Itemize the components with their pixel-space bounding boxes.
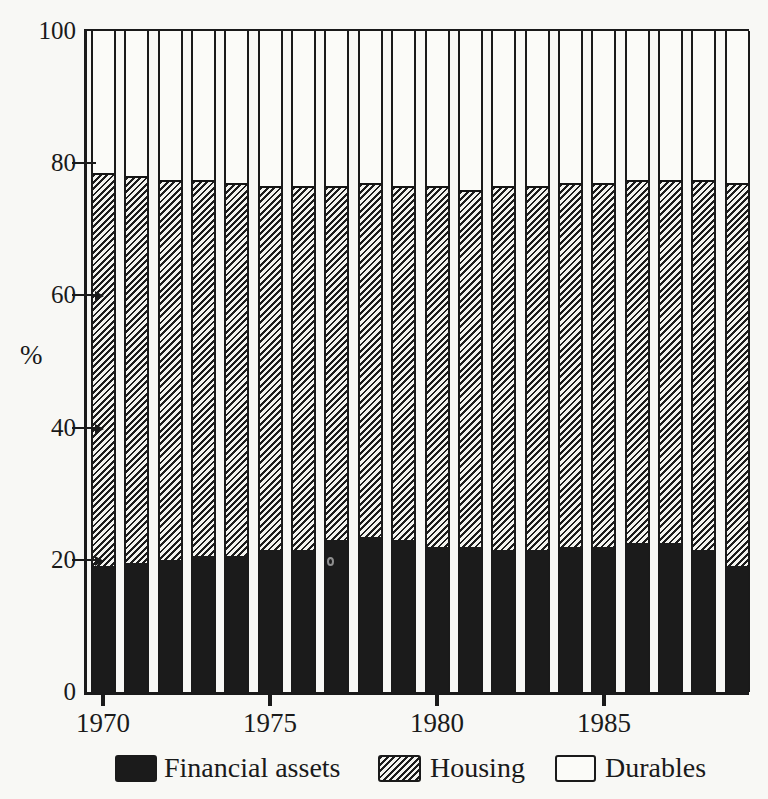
bar-1970 (91, 31, 116, 692)
x-tick-1975 (268, 695, 272, 706)
segment-durables-1982 (493, 31, 514, 186)
segment-durables-1988 (693, 31, 714, 180)
segment-financial-assets-1983 (527, 550, 548, 692)
y-tick-arrow-60 (95, 291, 104, 301)
y-tick-label-80: 80 (26, 150, 76, 176)
segment-financial-assets-1987 (660, 543, 681, 692)
x-tick-label-1975: 1975 (225, 708, 315, 739)
segment-durables-1981 (460, 31, 481, 190)
segment-durables-1976 (293, 31, 314, 186)
y-tick-arrow-20 (95, 556, 104, 566)
x-tick-label-1970: 1970 (58, 708, 148, 739)
scanned-chart-page: 100 80 60 40 20 0 % 1970 1975 1980 1985 … (0, 0, 768, 799)
segment-housing-1972 (160, 180, 181, 560)
segment-financial-assets-1971 (126, 563, 147, 692)
segment-housing-1971 (126, 176, 147, 563)
bar-1971 (124, 31, 149, 692)
segment-durables-1989 (727, 31, 748, 183)
segment-durables-1971 (126, 31, 147, 176)
y-tick-arrow-40 (95, 424, 104, 434)
bar-1973 (191, 31, 216, 692)
segment-durables-1986 (627, 31, 648, 180)
segment-housing-1980 (427, 186, 448, 546)
segment-housing-1978 (360, 183, 381, 537)
x-tick-label-1985: 1985 (559, 708, 649, 739)
segment-housing-1988 (693, 180, 714, 550)
bar-1980 (425, 31, 450, 692)
segment-durables-1984 (560, 31, 581, 183)
segment-financial-assets-1979 (393, 540, 414, 692)
legend-label-durables: Durables (605, 752, 706, 784)
y-tick-40 (72, 427, 96, 429)
segment-financial-assets-1988 (693, 550, 714, 692)
segment-durables-1980 (427, 31, 448, 186)
segment-housing-1985 (593, 183, 614, 547)
segment-financial-assets-1980 (427, 547, 448, 692)
segment-financial-assets-1976 (293, 550, 314, 692)
bar-1988 (691, 31, 716, 692)
legend-label-financial-assets: Financial assets (164, 752, 341, 784)
segment-financial-assets-1973 (193, 556, 214, 692)
y-tick-label-60: 60 (26, 282, 76, 308)
bar-1977 (324, 31, 349, 692)
legend-swatch-financial-assets (115, 755, 157, 782)
segment-durables-1975 (260, 31, 281, 186)
y-axis-line (84, 29, 87, 695)
segment-financial-assets-1972 (160, 560, 181, 692)
segment-housing-1982 (493, 186, 514, 550)
segment-housing-1975 (260, 186, 281, 550)
segment-housing-1979 (393, 186, 414, 540)
y-tick-label-100: 100 (26, 18, 76, 44)
bar-1972 (158, 31, 183, 692)
scan-artifact-dot (327, 557, 334, 566)
legend-swatch-durables (555, 755, 596, 782)
segment-financial-assets-1975 (260, 550, 281, 692)
x-axis-line (84, 692, 749, 695)
segment-housing-1989 (727, 183, 748, 566)
y-tick-80 (72, 162, 96, 164)
y-tick-label-40: 40 (26, 415, 76, 441)
legend-swatch-housing (378, 755, 421, 782)
segment-housing-1981 (460, 190, 481, 547)
segment-financial-assets-1989 (727, 566, 748, 692)
x-tick-1980 (435, 695, 439, 706)
bar-1981 (458, 31, 483, 692)
y-tick-60 (72, 294, 96, 296)
bar-1989 (725, 31, 750, 692)
bar-1987 (658, 31, 683, 692)
segment-housing-1983 (527, 186, 548, 550)
bar-1983 (525, 31, 550, 692)
segment-durables-1987 (660, 31, 681, 180)
segment-housing-1973 (193, 180, 214, 557)
segment-financial-assets-1986 (627, 543, 648, 692)
segment-durables-1977 (326, 31, 347, 186)
segment-durables-1983 (527, 31, 548, 186)
segment-durables-1974 (226, 31, 247, 183)
segment-financial-assets-1970 (93, 566, 114, 692)
y-axis-label: % (20, 340, 43, 371)
bar-1985 (591, 31, 616, 692)
bar-1982 (491, 31, 516, 692)
legend-label-housing: Housing (430, 752, 525, 784)
segment-housing-1970 (93, 173, 114, 566)
segment-durables-1970 (93, 31, 114, 173)
y-tick-label-0: 0 (26, 679, 76, 705)
bar-1986 (625, 31, 650, 692)
segment-financial-assets-1981 (460, 547, 481, 692)
bar-1975 (258, 31, 283, 692)
bar-1984 (558, 31, 583, 692)
segment-durables-1978 (360, 31, 381, 183)
y-tick-20 (72, 559, 96, 561)
segment-housing-1986 (627, 180, 648, 544)
x-tick-1985 (602, 695, 606, 706)
segment-financial-assets-1974 (226, 556, 247, 692)
bar-1979 (391, 31, 416, 692)
y-tick-label-20: 20 (26, 547, 76, 573)
segment-housing-1977 (326, 186, 347, 540)
bar-1976 (291, 31, 316, 692)
x-tick-label-1980: 1980 (392, 708, 482, 739)
segment-durables-1979 (393, 31, 414, 186)
segment-housing-1987 (660, 180, 681, 544)
x-tick-1970 (101, 695, 105, 706)
segment-housing-1984 (560, 183, 581, 547)
